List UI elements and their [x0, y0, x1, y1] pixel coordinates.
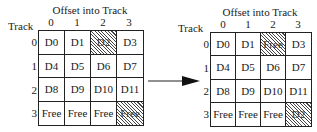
block-cell: D8 — [211, 80, 236, 103]
block-cell: D4 — [39, 55, 65, 79]
block-cell: Free — [91, 102, 117, 126]
remapped-block-cell: D2 — [91, 31, 117, 55]
block-label: D10 — [264, 85, 283, 97]
after-col-label: 2 — [260, 18, 286, 30]
before-track-axis-label: Track — [8, 20, 33, 32]
block-label: D3 — [123, 36, 136, 48]
block-label: Free — [120, 107, 140, 119]
before-panel: Offset into Track Track 0 1 2 3 0 1 2 3 … — [0, 0, 150, 132]
block-cell: Free — [65, 102, 91, 126]
block-label: Free — [68, 107, 88, 119]
after-track-axis-label: Track — [178, 22, 203, 34]
block-cell: D7 — [117, 55, 143, 79]
block-cell: D7 — [286, 56, 311, 79]
block-label: D11 — [289, 85, 308, 97]
block-cell: D3 — [117, 31, 143, 55]
block-cell: D5 — [65, 55, 91, 79]
block-cell: Free — [261, 103, 286, 126]
block-label: D1 — [241, 38, 254, 50]
block-label: Free — [263, 38, 283, 50]
block-label: D9 — [71, 83, 84, 95]
block-label: D8 — [45, 83, 58, 95]
before-block-grid: D0D1D2D3D4D5D6D7D8D9D10D11FreeFreeFreeFr… — [38, 30, 144, 126]
block-label: D4 — [216, 61, 229, 73]
block-cell: D6 — [91, 55, 117, 79]
block-label: D2 — [97, 36, 110, 48]
block-cell: Free — [236, 103, 261, 126]
before-col-label: 3 — [116, 16, 142, 28]
block-label: D5 — [71, 60, 84, 72]
block-cell: D0 — [211, 33, 236, 56]
block-label: Free — [94, 107, 114, 119]
block-cell: D0 — [39, 31, 65, 55]
after-title: Offset into Track — [222, 6, 298, 18]
block-cell: D9 — [236, 80, 261, 103]
block-cell: D3 — [286, 33, 311, 56]
block-cell: D6 — [261, 56, 286, 79]
block-label: D6 — [266, 61, 279, 73]
block-label: Free — [42, 107, 62, 119]
before-title: Offset into Track — [52, 4, 128, 16]
after-col-label: 3 — [285, 18, 311, 30]
block-label: D10 — [94, 83, 113, 95]
block-cell: D5 — [236, 56, 261, 79]
block-cell: D9 — [65, 78, 91, 102]
block-label: D5 — [241, 61, 254, 73]
block-cell: Free — [211, 103, 236, 126]
block-cell: Free — [39, 102, 65, 126]
block-label: D11 — [121, 83, 140, 95]
before-col-label: 0 — [38, 16, 64, 28]
after-row-label: 0 — [201, 38, 209, 50]
remapped-block-cell: D2 — [286, 103, 311, 126]
block-label: D0 — [216, 38, 229, 50]
after-row-label: 2 — [201, 85, 209, 97]
block-label: D7 — [292, 61, 305, 73]
before-row-label: 1 — [29, 60, 37, 72]
after-block-grid: D0D1FreeD3D4D5D6D7D8D9D10D11FreeFreeFree… — [210, 32, 312, 127]
remapped-block-cell: Free — [261, 33, 286, 56]
before-row-label: 2 — [29, 84, 37, 96]
block-label: D1 — [71, 36, 84, 48]
block-cell: D10 — [261, 80, 286, 103]
block-cell: D4 — [211, 56, 236, 79]
block-cell: D11 — [117, 78, 143, 102]
before-col-label: 1 — [64, 16, 90, 28]
after-row-label: 3 — [201, 108, 209, 120]
block-label: D6 — [97, 60, 110, 72]
block-cell: D10 — [91, 78, 117, 102]
block-label: Free — [238, 108, 258, 120]
block-label: D8 — [216, 85, 229, 97]
block-cell: D1 — [65, 31, 91, 55]
block-label: D3 — [292, 38, 305, 50]
block-label: D4 — [45, 60, 58, 72]
block-label: Free — [263, 108, 283, 120]
after-row-label: 1 — [201, 62, 209, 74]
before-col-label: 2 — [90, 16, 116, 28]
block-cell: D1 — [236, 33, 261, 56]
before-row-label: 0 — [29, 36, 37, 48]
block-cell: D11 — [286, 80, 311, 103]
block-label: Free — [213, 108, 233, 120]
block-label: D9 — [241, 85, 254, 97]
block-label: D0 — [45, 36, 58, 48]
remapped-block-cell: Free — [117, 102, 143, 126]
block-label: D2 — [292, 108, 305, 120]
block-cell: D8 — [39, 78, 65, 102]
after-panel: Offset into Track Track 0 1 2 3 0 1 2 3 … — [170, 0, 317, 132]
before-row-label: 3 — [29, 107, 37, 119]
block-label: D7 — [123, 60, 136, 72]
after-col-label: 1 — [235, 18, 261, 30]
after-col-label: 0 — [210, 18, 236, 30]
